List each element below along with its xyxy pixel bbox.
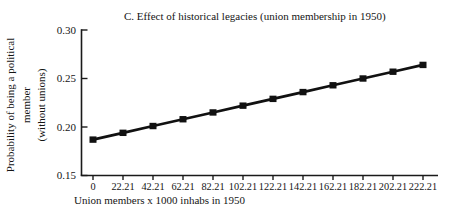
x-tick-label: 142.21: [289, 181, 317, 192]
data-point: [390, 69, 397, 75]
data-line: [93, 65, 423, 140]
x-tick-label: 62.21: [171, 181, 194, 192]
y-tick-label: 0.20: [57, 121, 77, 133]
y-tick-label: 0.30: [57, 24, 77, 36]
x-tick-label: 222.21: [409, 181, 437, 192]
data-point: [330, 82, 337, 88]
data-point: [360, 75, 367, 81]
y-tick-label: 0.15: [57, 169, 77, 181]
y-tick-label: 0.25: [57, 72, 77, 84]
data-point: [120, 130, 127, 136]
plot-area: 0.150.200.250.30022.2142.2162.2182.21102…: [0, 0, 463, 222]
data-point: [150, 123, 157, 129]
x-tick-label: 102.21: [229, 181, 257, 192]
data-point: [210, 109, 217, 115]
chart-figure: C. Effect of historical legacies (union …: [0, 0, 463, 222]
x-tick-label: 42.21: [141, 181, 164, 192]
x-axis-label: Union members x 1000 inhabs in 1950: [74, 194, 245, 206]
x-tick-label: 122.21: [259, 181, 287, 192]
data-point: [300, 89, 307, 95]
x-tick-label: 202.21: [379, 181, 407, 192]
data-point: [420, 62, 427, 68]
x-tick-label: 182.21: [349, 181, 377, 192]
x-tick-label: 162.21: [319, 181, 347, 192]
x-tick-label: 0: [90, 181, 95, 192]
data-point: [240, 102, 247, 108]
data-point: [90, 136, 97, 142]
data-point: [180, 116, 187, 122]
x-tick-label: 22.21: [111, 181, 134, 192]
data-point: [270, 96, 277, 102]
x-tick-label: 82.21: [201, 181, 224, 192]
